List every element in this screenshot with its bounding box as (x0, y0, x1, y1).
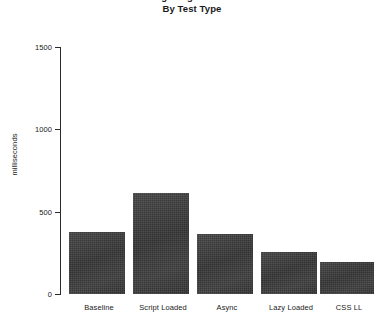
bar-css-ll (320, 262, 374, 294)
y-tick-mark-0 (55, 294, 60, 295)
y-tick-label-0: 0 (12, 290, 52, 299)
plot-area (60, 47, 378, 294)
y-tick-label-500: 500 (12, 208, 52, 217)
bar-baseline (69, 232, 125, 294)
x-axis-labels: Baseline Script Loaded Async Lazy Loaded… (60, 303, 378, 317)
y-tick-label-1500: 1500 (12, 43, 52, 52)
y-axis-label: milliseconds (10, 120, 19, 190)
chart-title-block: Average Page Load Time By Test Type (0, 0, 384, 15)
x-tick-label-css-ll: CSS LL (307, 303, 384, 312)
chart-subtitle: By Test Type (0, 3, 384, 15)
bar-lazy-loaded (261, 252, 317, 294)
bar-script-loaded (133, 193, 189, 294)
bars-group (60, 47, 378, 294)
bar-async (197, 234, 253, 294)
bar-chart: Average Page Load Time By Test Type 1500… (0, 0, 384, 332)
